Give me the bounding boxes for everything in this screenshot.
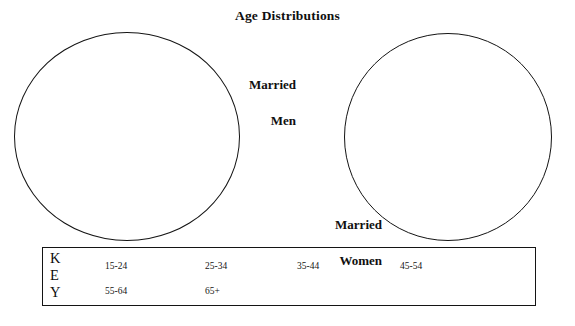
legend-box bbox=[42, 247, 536, 306]
legend-item-15-24: 15-24 bbox=[105, 261, 127, 271]
legend-item-35-44: 35-44 bbox=[297, 261, 319, 271]
chart-canvas: Age Distributions Married Men Married Wo… bbox=[0, 0, 575, 326]
pie-label-married-men-line2: Men bbox=[196, 112, 296, 130]
pie-label-married-women-line1: Married bbox=[278, 216, 382, 234]
legend-item-25-34: 25-34 bbox=[205, 261, 227, 271]
page-title: Age Distributions bbox=[0, 8, 575, 24]
legend-title: K E Y bbox=[50, 250, 60, 301]
legend-title-letter-e: E bbox=[50, 267, 60, 284]
legend-title-letter-k: K bbox=[50, 250, 60, 267]
pie-label-married-men-line1: Married bbox=[196, 76, 296, 94]
legend-title-letter-y: Y bbox=[50, 284, 60, 301]
legend-item-45-54: 45-54 bbox=[400, 261, 422, 271]
legend-item-55-64: 55-64 bbox=[105, 286, 127, 296]
pie-label-married-men: Married Men bbox=[196, 58, 296, 148]
legend-item-65-plus: 65+ bbox=[205, 286, 220, 296]
